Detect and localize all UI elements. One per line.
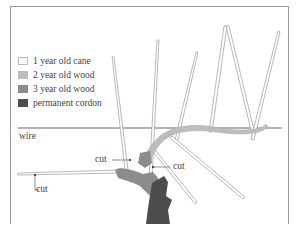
swatch-three-year [18,85,28,93]
swatch-cordon [18,99,28,107]
legend-label: 1 year old cane [33,56,91,66]
cut-label-left: cut [36,184,48,194]
legend-item-cordon: permanent cordon [18,96,102,110]
cut-label-right: cut [173,161,185,171]
legend-item-three-year: 3 year old wood [18,82,102,96]
cut-label-middle: cut [95,154,107,164]
legend-item-two-year: 2 year old wood [18,68,102,82]
legend-item-one-year: 1 year old cane [18,54,102,68]
wire-label: wire [19,131,36,141]
swatch-two-year [18,71,28,79]
cut-marker-middle [129,159,131,161]
two-year-wood [143,124,268,162]
cut-marker-right [152,166,154,168]
legend-label: 2 year old wood [33,70,94,80]
cut-marker-left [34,174,36,176]
legend-label: permanent cordon [33,98,102,108]
legend-label: 3 year old wood [33,84,94,94]
swatch-one-year [18,57,28,65]
legend: 1 year old cane 2 year old wood 3 year o… [18,54,102,110]
